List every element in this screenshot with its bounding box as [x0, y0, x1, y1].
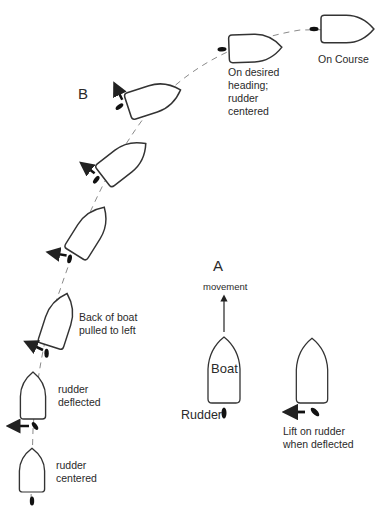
panel-a-deflected-boat	[290, 338, 328, 417]
boat-step-8	[310, 15, 374, 43]
panel-a-boat	[208, 337, 240, 419]
rudder-icon	[310, 27, 319, 31]
rudder-icon	[30, 497, 34, 506]
lift-label: Lift on rudder when deflected	[283, 425, 354, 451]
boat-step-6	[109, 69, 185, 124]
force-arrow-icon	[85, 166, 95, 173]
force-arrow-icon	[53, 253, 67, 255]
rudder-icon	[309, 406, 320, 417]
rudder-icon	[217, 47, 226, 52]
step-1-label: rudder centered	[56, 459, 97, 485]
rudder-icon	[67, 254, 73, 264]
boat-step-5	[81, 128, 154, 195]
boat-step-1	[19, 448, 44, 505]
force-arrow-icon	[117, 88, 123, 100]
rudder-label: Rudder	[181, 408, 222, 422]
force-arrow-icon	[30, 344, 43, 350]
boat-step-2	[13, 372, 46, 431]
boat-label: Boat	[211, 361, 238, 376]
rudder-icon	[92, 175, 101, 185]
boat-step-7	[217, 33, 282, 63]
rudder-icon	[222, 408, 227, 419]
step-2-label: rudder deflected	[58, 383, 101, 409]
movement-label: movement	[203, 280, 247, 293]
boat-step-4	[52, 197, 115, 271]
rudder-icon	[115, 102, 125, 111]
step-7-label: On desired heading; rudder centered	[228, 66, 279, 118]
boat-step-3	[27, 287, 79, 362]
rudder-icon	[44, 349, 48, 358]
step-3-label: Back of boat pulled to left	[79, 311, 137, 337]
section-label-a: A	[213, 257, 223, 274]
section-label-b: B	[78, 85, 88, 102]
rudder-icon	[31, 421, 40, 431]
step-8-label: On Course	[318, 53, 369, 66]
